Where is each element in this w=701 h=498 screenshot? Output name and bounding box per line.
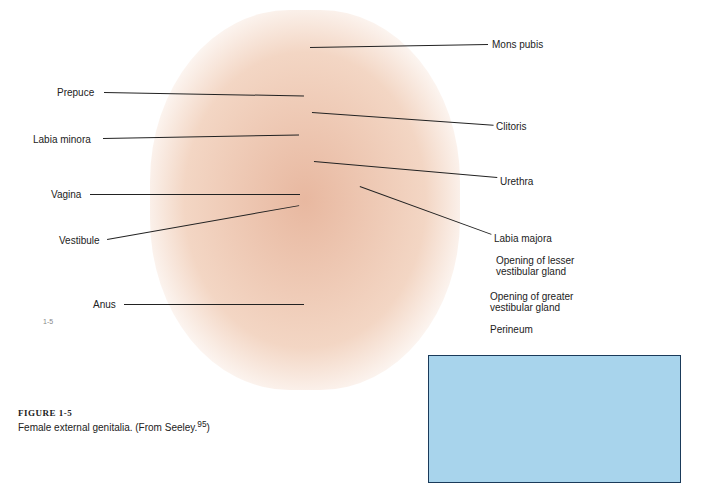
figure-number: FIGURE 1-5 <box>18 408 72 418</box>
label-greater-gland-line1: Opening of greater <box>490 291 573 302</box>
label-vestibule: Vestibule <box>59 235 100 246</box>
anatomical-illustration <box>150 10 460 390</box>
label-greater-gland-line2: vestibular gland <box>490 302 560 313</box>
label-lesser-gland-line2: vestibular gland <box>496 266 566 277</box>
label-mons-pubis: Mons pubis <box>492 39 543 50</box>
label-prepuce: Prepuce <box>57 87 94 98</box>
caption-close: ) <box>207 422 210 433</box>
citation-superscript: 95 <box>197 419 206 429</box>
label-perineum: Perineum <box>490 324 533 335</box>
figure-caption: Female external genitalia. (From Seeley.… <box>18 419 210 433</box>
leader-line <box>90 194 300 195</box>
orientation-inset <box>428 355 681 483</box>
page-mark: 1-5 <box>43 318 53 325</box>
caption-text: Female external genitalia. (From Seeley. <box>18 422 197 433</box>
label-labia-minora: Labia minora <box>33 134 91 145</box>
label-labia-majora: Labia majora <box>494 233 552 244</box>
leader-line <box>124 304 304 305</box>
label-lesser-gland-line1: Opening of lesser <box>496 255 574 266</box>
label-clitoris: Clitoris <box>496 121 527 132</box>
label-vagina: Vagina <box>51 189 81 200</box>
label-anus: Anus <box>93 299 116 310</box>
label-urethra: Urethra <box>500 176 533 187</box>
